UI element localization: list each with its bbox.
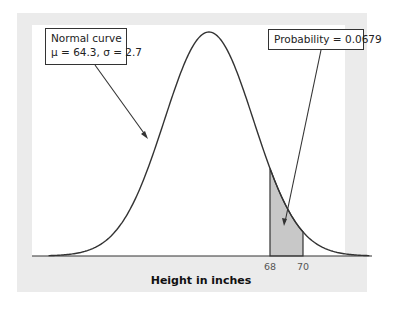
tick-label-68: 68 <box>264 261 276 272</box>
curve-arrowhead-icon <box>141 131 148 139</box>
normal-curve <box>49 32 370 256</box>
tick-label-70: 70 <box>297 261 309 272</box>
normal-curve-callout: Normal curve μ = 64.3, σ = 2.7 <box>45 28 127 65</box>
callout-title: Normal curve <box>51 31 121 45</box>
curve-callout-pointer <box>95 65 146 136</box>
probability-callout: Probability = 0.0679 <box>268 29 364 50</box>
probability-text: Probability = 0.0679 <box>274 32 358 46</box>
probability-callout-pointer <box>285 50 321 222</box>
callout-parameters: μ = 64.3, σ = 2.7 <box>51 45 121 59</box>
x-axis-label: Height in inches <box>0 274 402 287</box>
